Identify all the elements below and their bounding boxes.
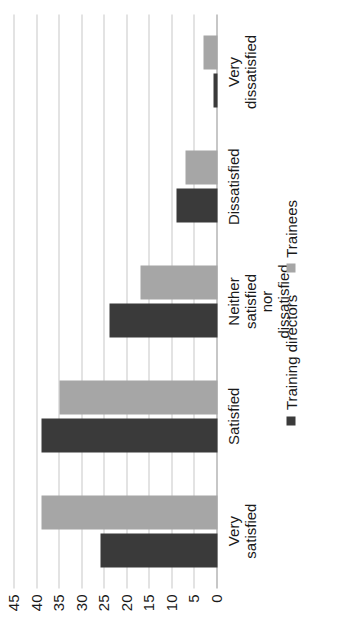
legend-item[interactable]: Trainees [282,199,299,272]
category-label: Satisfied [225,387,242,445]
bar-0-4[interactable] [213,73,218,107]
bar-0-3[interactable] [176,188,217,222]
bar-groups: Very satisfiedSatisfiedNeither satisfied… [14,14,217,588]
bar-group: Very dissatisfied [14,14,217,129]
chart-plot-area: 051015202530354045 Very satisfiedSatisfi… [0,0,265,624]
category-label: Dissatisfied [225,148,242,225]
category-label: Very dissatisfied [225,34,258,108]
bar-1-4[interactable] [203,35,217,69]
bar-1-3[interactable] [185,150,217,184]
y-axis-tick-label: 5 [186,594,201,602]
chart-legend: Training directorsTrainees [282,0,299,624]
bar-1-0[interactable] [41,495,217,529]
bar-0-2[interactable] [109,303,217,337]
legend-swatch-icon [286,263,295,272]
y-axis-tick-label: 20 [118,594,133,611]
bar-group: Satisfied [14,358,217,473]
y-axis-tick-label: 35 [51,594,66,611]
bar-group: Dissatisfied [14,129,217,244]
plot-box: 051015202530354045 Very satisfiedSatisfi… [14,14,217,588]
bar-group: Neither satisfied nor dissatisfied [14,244,217,359]
legend-swatch-icon [286,416,295,425]
bar-chart: 051015202530354045 Very satisfiedSatisfi… [0,0,343,624]
chart-rotation-host: 051015202530354045 Very satisfiedSatisfi… [0,0,343,624]
y-axis-tick-label: 0 [209,594,224,602]
y-axis-tick-label: 10 [163,594,178,611]
legend-item[interactable]: Training directors [282,294,299,424]
y-axis-tick-label: 30 [73,594,88,611]
bar-0-0[interactable] [100,533,217,567]
y-axis-tick-label: 45 [6,594,21,611]
y-axis-tick-label: 40 [28,594,43,611]
bar-1-1[interactable] [59,380,217,414]
y-axis-tick-label: 15 [141,594,156,611]
legend-label: Trainees [282,199,299,257]
bar-0-1[interactable] [41,418,217,452]
category-label: Neither satisfied nor dissatisfied [225,264,291,338]
category-label: Very satisfied [225,502,258,559]
bar-1-2[interactable] [140,265,217,299]
bar-group: Very satisfied [14,473,217,588]
y-axis-tick-label: 25 [96,594,111,611]
legend-label: Training directors [282,294,299,409]
